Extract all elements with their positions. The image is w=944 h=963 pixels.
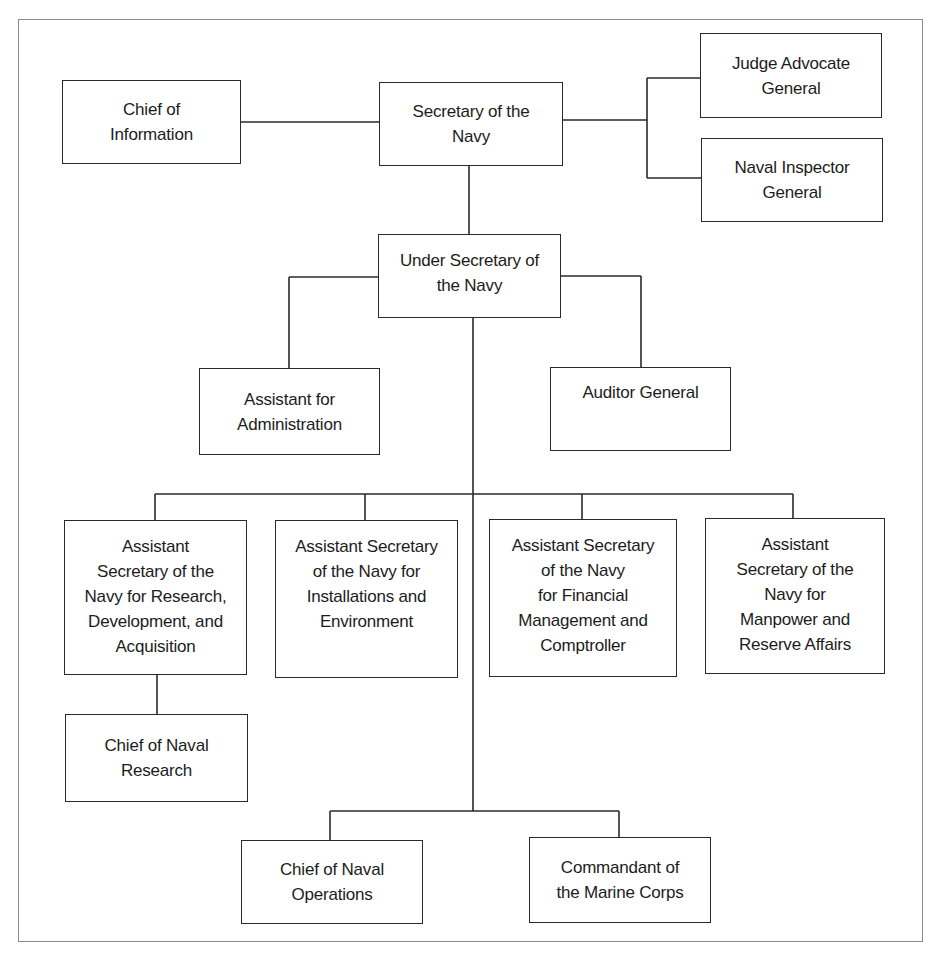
box-secretary-of-the-navy: Secretary of the Navy [379,82,563,166]
box-label: Auditor General [582,380,698,405]
box-chief-of-information: Chief of Information [62,80,241,164]
box-assistant-for-administration: Assistant for Administration [199,368,380,455]
box-label: Secretary of the Navy [413,99,530,149]
box-auditor-general: Auditor General [550,367,731,451]
box-label: Assistant Secretary of the Navy for Inst… [295,534,438,634]
box-asn-installations-environment: Assistant Secretary of the Navy for Inst… [275,520,458,678]
box-under-secretary-of-the-navy: Under Secretary of the Navy [378,234,561,318]
box-asn-financial-management-comptroller: Assistant Secretary of the Navy for Fina… [489,519,677,677]
box-label: Chief of Naval Operations [280,857,384,907]
box-label: Naval Inspector General [734,155,849,205]
box-label: Assistant for Administration [237,387,342,437]
box-chief-of-naval-research: Chief of Naval Research [65,714,248,802]
box-naval-inspector-general: Naval Inspector General [701,138,883,222]
box-label: Assistant Secretary of the Navy for Rese… [85,534,227,659]
box-label: Chief of Naval Research [105,733,209,783]
box-label: Under Secretary of the Navy [400,248,539,298]
box-label: Judge Advocate General [732,51,850,101]
box-judge-advocate-general: Judge Advocate General [700,33,882,118]
box-asn-research-development-acquisition: Assistant Secretary of the Navy for Rese… [64,520,247,675]
box-chief-of-naval-operations: Chief of Naval Operations [241,840,423,924]
box-label: Assistant Secretary of the Navy for Manp… [737,532,854,657]
box-asn-manpower-reserve-affairs: Assistant Secretary of the Navy for Manp… [705,518,885,674]
box-commandant-of-the-marine-corps: Commandant of the Marine Corps [529,837,711,923]
box-label: Commandant of the Marine Corps [556,855,683,905]
box-label: Assistant Secretary of the Navy for Fina… [512,533,655,658]
box-label: Chief of Information [110,97,193,147]
